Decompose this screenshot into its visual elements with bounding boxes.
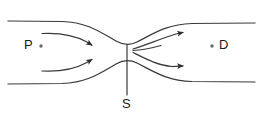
streamline-upstream-upper <box>42 33 92 45</box>
lower-wall <box>8 61 255 84</box>
streamline-upstream-lower <box>42 59 92 71</box>
flow-diagram: P D S <box>0 0 262 115</box>
upper-wall <box>8 21 255 44</box>
label-upstream-p: P <box>24 38 33 51</box>
downstream-point-marker <box>210 44 213 47</box>
label-downstream-d: D <box>219 38 228 51</box>
flow-schematic-svg <box>0 0 262 115</box>
label-throat-s: S <box>122 97 131 110</box>
upstream-point-marker <box>39 44 42 47</box>
